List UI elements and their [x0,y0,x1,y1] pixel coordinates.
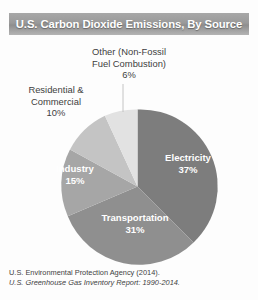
pie-label-electricity: Electricity 37% [152,152,224,176]
chart-figure: U.S. Carbon Dioxide Emissions, By Source… [0,0,258,300]
source-line-agency: U.S. Environmental Protection Agency (20… [9,268,253,278]
pie-chart [0,0,258,300]
chart-title-band: U.S. Carbon Dioxide Emissions, By Source [9,13,249,35]
source-line-report: U.S. Greenhouse Gas Inventory Report: 19… [9,278,253,288]
pie-slice-other [105,109,138,186]
pie-label-transportation: Transportation 31% [82,212,188,236]
source-citation: U.S. Environmental Protection Agency (20… [9,268,253,288]
pie-label-other: Other (Non-Fossil Fuel Combustion) 6% [58,46,200,81]
pie-label-industry: Industry 15% [42,163,108,187]
pie-label-residential-commercial: Residential & Commercial 10% [4,84,108,119]
pie-chart-svg [0,0,258,300]
page-title: U.S. Carbon Dioxide Emissions, By Source [16,18,242,30]
